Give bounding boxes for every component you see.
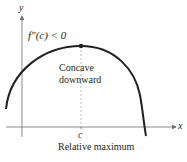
downward-label: downward [59,74,101,85]
concave-label: Concave [59,62,94,73]
caption: Relative maximum [58,141,134,152]
second-derivative-condition: f″(c) < 0 [28,29,66,41]
y-axis-label: y [19,2,23,13]
c-label: c [78,129,82,140]
relative-maximum-point [79,44,83,48]
x-axis-label: x [178,120,182,131]
concave-down-curve [6,46,146,136]
